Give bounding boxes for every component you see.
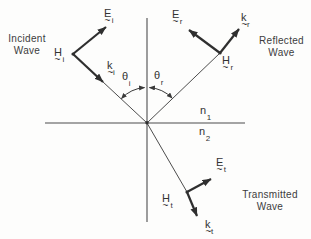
e-transmitted-tilde: ~ [217,164,223,175]
k-transmitted-sub: t [211,227,213,236]
theta-r-arc [149,88,172,99]
e-reflected-arrow [189,30,220,53]
h-reflected-sub: r [230,63,233,72]
reflected-wave-label: Reflected Wave [252,35,311,58]
reflected-wave-line2: Wave [252,47,311,59]
e-reflected-sub: r [180,17,183,26]
incident-vertex-dot [71,52,74,55]
transmitted-wave-label: Transmitted Wave [232,189,308,212]
n2-main: n [199,126,205,137]
transmitted-wave-line2: Wave [232,201,308,213]
n2-sub: 2 [206,134,210,143]
k-reflected-arrow [220,29,239,53]
n1-label: n1 [200,105,211,119]
h-incident-sub: i [62,55,64,64]
h-reflected-tilde: ~ [223,62,229,73]
e-incident-arrow [73,27,106,54]
h-transmitted-label: H~t [162,193,172,207]
k-transmitted-arrow [187,192,197,216]
e-transmitted-arrow [187,179,211,192]
theta-r-symbol: θ [154,70,160,81]
n1-main: n [200,105,206,116]
k-incident-label: k~i [107,60,114,74]
h-reflected-label: H~r [222,55,233,69]
transmitted-wave-line1: Transmitted [232,189,308,201]
theta-i-arc [121,88,144,99]
incident-wave-label: Incident Wave [0,33,54,56]
h-incident-tilde: ~ [55,54,61,65]
n1-sub: 1 [207,113,211,122]
e-transmitted-label: E~t [216,157,226,171]
theta-i-symbol: θ [122,71,128,82]
incident-wave-line1: Incident [0,33,54,45]
h-transmitted-tilde: ~ [163,200,169,211]
h-incident-label: H~i [54,47,64,61]
wave-interface-diagram: Incident Wave Reflected Wave Transmitted… [0,0,311,239]
k-reflected-label: k~r [241,12,249,26]
theta-r-label: θr [154,70,163,84]
k-reflected-sub: r [247,20,250,29]
e-incident-label: E~i [104,8,113,22]
h-transmitted-sub: t [170,201,172,210]
e-reflected-label: E~r [172,9,182,23]
e-reflected-tilde: ~ [173,16,179,27]
n2-label: n2 [199,126,210,140]
reflected-wave-line1: Reflected [252,35,311,47]
k-incident-sub: i [113,68,115,77]
e-incident-tilde: ~ [105,15,111,26]
incident-wave-line2: Wave [0,45,54,57]
e-transmitted-sub: t [224,165,226,174]
transmitted-vertex-dot [185,190,188,193]
k-incident-arrow [73,54,103,82]
transmitted-ray-line [147,123,187,192]
theta-r-sub: r [161,78,164,87]
e-incident-sub: i [112,16,114,25]
theta-i-label: θi [122,71,130,85]
k-transmitted-label: k~t [205,219,213,233]
interface-vertex-dot [145,121,148,124]
